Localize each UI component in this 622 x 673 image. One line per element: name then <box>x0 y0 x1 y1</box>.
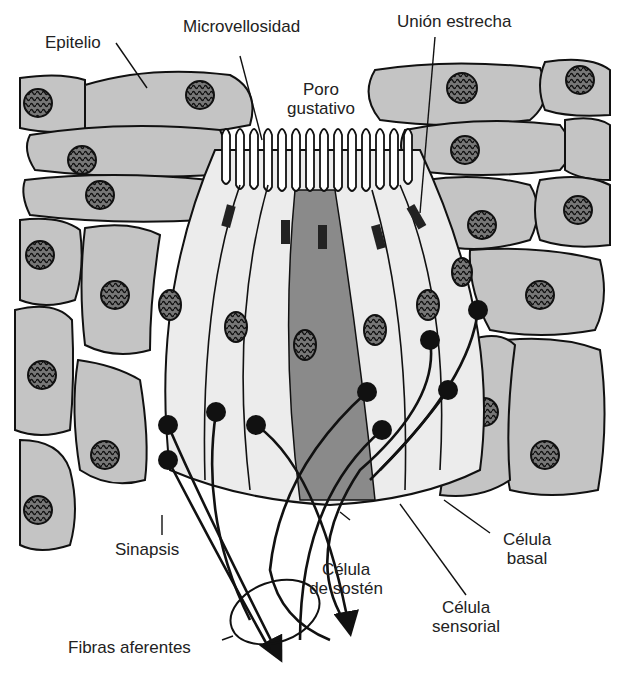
label-basal-line1: Célula <box>494 530 560 549</box>
label-poro-line2: gustativo <box>285 99 357 118</box>
label-poro-gustativo: Poro gustativo <box>285 80 357 118</box>
label-sosten-line2: de sostén <box>300 579 392 598</box>
label-sensorial-line2: sensorial <box>420 617 512 636</box>
label-microvellosidad: Microvellosidad <box>183 17 300 36</box>
label-basal-line2: basal <box>494 549 560 568</box>
label-epitelio: Epitelio <box>45 33 101 52</box>
label-sinapsis: Sinapsis <box>115 540 179 559</box>
label-celula-sensorial: Célula sensorial <box>420 598 512 636</box>
label-celula-sosten: Célula de sostén <box>300 560 392 598</box>
label-sensorial-line1: Célula <box>420 598 512 617</box>
label-union-estrecha: Unión estrecha <box>397 12 511 31</box>
label-fibras-aferentes: Fibras aferentes <box>68 638 191 657</box>
label-poro-line1: Poro <box>285 80 357 99</box>
label-sosten-line1: Célula <box>300 560 392 579</box>
label-celula-basal: Célula basal <box>494 530 560 568</box>
